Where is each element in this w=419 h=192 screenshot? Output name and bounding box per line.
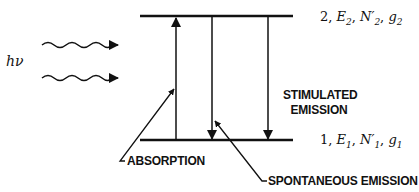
absorption-leader (120, 89, 174, 161)
photon-energy-label: hν (6, 53, 24, 69)
upper-level-label: 2, E2, N′2, g2 (320, 8, 402, 27)
lower-level-label: 1, E1, N′1, g1 (320, 132, 402, 150)
spontaneous-emission-label: SPONTANEOUS EMISSION (268, 174, 418, 188)
spontaneous-leader (215, 121, 267, 181)
stimulated-emission-label: STIMULATED EMISSION (283, 88, 355, 118)
photon-wave-lower (42, 76, 118, 81)
absorption-label: ABSORPTION (127, 154, 205, 168)
photon-wave-upper (42, 43, 118, 48)
